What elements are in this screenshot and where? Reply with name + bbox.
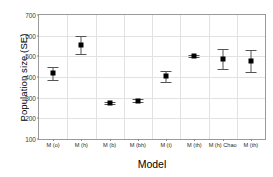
x-tick-mark: [110, 139, 111, 141]
x-tick-label: M (o): [47, 142, 60, 148]
error-bar-cap-lower: [161, 82, 172, 83]
error-bar-cap-lower: [48, 80, 59, 81]
chart-figure: Population size (SE) 1002003004005006007…: [0, 0, 273, 177]
y-tick-label: 300: [25, 94, 36, 101]
plot-area: 100200300400500600700M (o)M (h)M (b)M (b…: [38, 14, 266, 140]
x-tick-mark: [166, 139, 167, 141]
error-bar-cap-upper: [217, 49, 228, 50]
x-tick-label: M (h): [75, 142, 88, 148]
y-tick-mark: [37, 56, 39, 57]
x-tick-mark: [53, 139, 54, 141]
x-tick-mark: [138, 139, 139, 141]
y-tick-mark: [37, 35, 39, 36]
y-tick-label: 200: [25, 115, 36, 122]
x-axis-title: Model: [38, 158, 266, 170]
x-tick-mark: [81, 139, 82, 141]
x-gridline: [152, 15, 153, 139]
y-tick-label: 100: [25, 136, 36, 143]
y-tick-label: 600: [25, 32, 36, 39]
y-tick-mark: [37, 97, 39, 98]
error-bar-cap-lower: [245, 72, 256, 73]
x-gridline: [96, 15, 97, 139]
data-point-marker: [79, 43, 84, 48]
error-bar-cap-upper: [76, 36, 87, 37]
x-gridline: [124, 15, 125, 139]
data-point-marker: [164, 74, 169, 79]
data-point-marker: [192, 53, 197, 58]
x-tick-label: M (b): [103, 142, 116, 148]
data-point-marker: [248, 58, 253, 63]
x-tick-mark: [251, 139, 252, 141]
y-tick-label: 500: [25, 53, 36, 60]
error-bar-cap-upper: [161, 71, 172, 72]
data-point-marker: [135, 98, 140, 103]
y-tick-label: 400: [25, 74, 36, 81]
y-tick-label: 700: [25, 12, 36, 19]
y-tick-mark: [37, 139, 39, 140]
x-gridline: [237, 15, 238, 139]
x-tick-label: M (th): [244, 142, 259, 148]
x-gridline: [180, 15, 181, 139]
error-bar-cap-upper: [48, 67, 59, 68]
error-bar-cap-lower: [217, 69, 228, 70]
y-tick-mark: [37, 77, 39, 78]
y-tick-mark: [37, 118, 39, 119]
x-tick-label: M (bh): [130, 142, 146, 148]
x-tick-label: M (t): [160, 142, 172, 148]
x-tick-label: M (h) Chao: [209, 142, 237, 148]
data-point-marker: [220, 57, 225, 62]
data-point-marker: [107, 101, 112, 106]
x-gridline: [67, 15, 68, 139]
error-bar-cap-lower: [76, 54, 87, 55]
data-point-marker: [51, 70, 56, 75]
x-tick-mark: [194, 139, 195, 141]
error-bar-cap-upper: [245, 50, 256, 51]
x-tick-label: M (th): [187, 142, 202, 148]
x-tick-mark: [223, 139, 224, 141]
x-gridline: [209, 15, 210, 139]
y-tick-mark: [37, 15, 39, 16]
